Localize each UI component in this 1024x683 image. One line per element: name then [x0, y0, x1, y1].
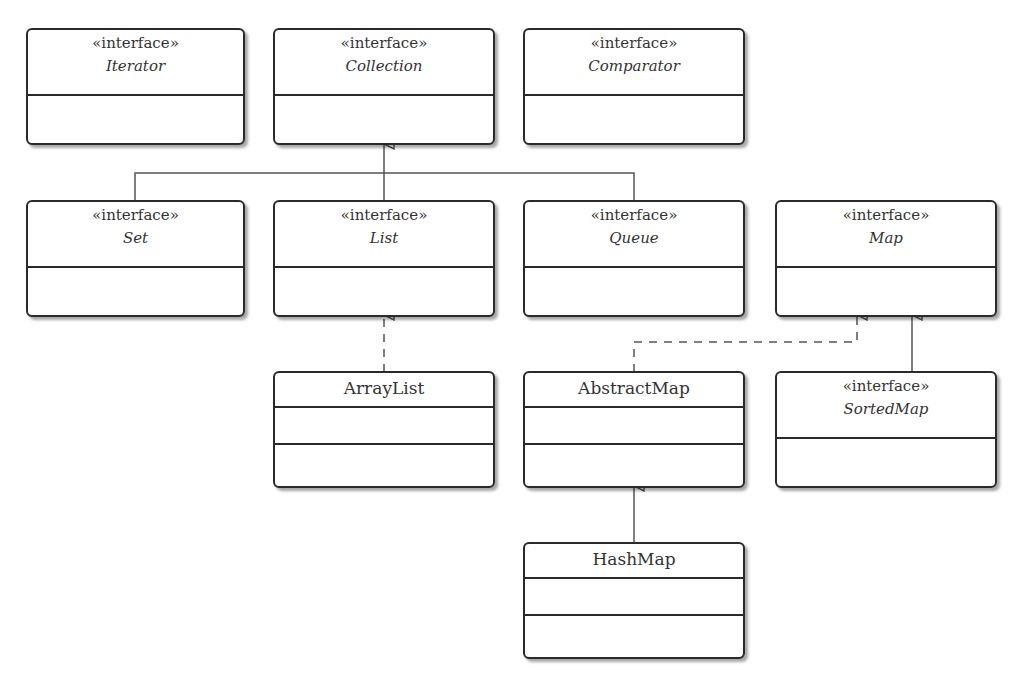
- node-hashmap[interactable]: HashMap: [523, 542, 745, 659]
- node-collection[interactable]: «interface» Collection: [273, 28, 495, 145]
- class-name: AbstractMap: [525, 377, 743, 399]
- stereotype-label: «interface»: [28, 34, 243, 53]
- node-header: «interface» Comparator: [525, 30, 743, 96]
- node-arraylist[interactable]: ArrayList: [273, 371, 495, 488]
- node-header: «interface» Map: [777, 202, 995, 268]
- stereotype-label: «interface»: [777, 206, 995, 225]
- node-iterator[interactable]: «interface» Iterator: [26, 28, 245, 145]
- node-header: HashMap: [525, 544, 743, 579]
- attributes-section: [525, 579, 743, 616]
- node-header: AbstractMap: [525, 373, 743, 408]
- node-header: «interface» Set: [28, 202, 243, 268]
- stereotype-label: «interface»: [777, 377, 995, 396]
- class-name: Queue: [525, 225, 743, 251]
- class-name: Comparator: [525, 53, 743, 79]
- stereotype-label: «interface»: [525, 34, 743, 53]
- node-set[interactable]: «interface» Set: [26, 200, 245, 317]
- node-queue[interactable]: «interface» Queue: [523, 200, 745, 317]
- node-header: ArrayList: [275, 373, 493, 408]
- node-map[interactable]: «interface» Map: [775, 200, 997, 317]
- stereotype-label: «interface»: [275, 34, 493, 53]
- class-name: Collection: [275, 53, 493, 79]
- node-list[interactable]: «interface» List: [273, 200, 495, 317]
- stereotype-label: «interface»: [525, 206, 743, 225]
- stereotype-label: «interface»: [28, 206, 243, 225]
- class-name: List: [275, 225, 493, 251]
- node-abstractmap[interactable]: AbstractMap: [523, 371, 745, 488]
- class-name: ArrayList: [275, 377, 493, 399]
- class-name: Map: [777, 225, 995, 251]
- node-sortedmap[interactable]: «interface» SortedMap: [775, 371, 997, 488]
- node-header: «interface» Iterator: [28, 30, 243, 96]
- realization-abstractmap-map: [634, 315, 857, 372]
- stereotype-label: «interface»: [275, 206, 493, 225]
- generalization-collection: [135, 144, 634, 201]
- node-header: «interface» List: [275, 202, 493, 268]
- node-header: «interface» Queue: [525, 202, 743, 268]
- class-name: HashMap: [525, 548, 743, 570]
- attributes-section: [275, 408, 493, 445]
- class-name: SortedMap: [777, 396, 995, 422]
- attributes-section: [525, 408, 743, 445]
- class-name: Set: [28, 225, 243, 251]
- node-header: «interface» SortedMap: [777, 373, 995, 439]
- node-header: «interface» Collection: [275, 30, 493, 96]
- node-comparator[interactable]: «interface» Comparator: [523, 28, 745, 145]
- class-name: Iterator: [28, 53, 243, 79]
